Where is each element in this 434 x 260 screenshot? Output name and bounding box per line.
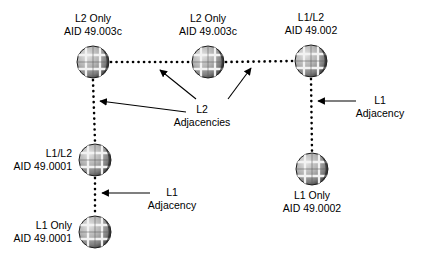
leader-l2-to-top-left-link: [160, 70, 196, 99]
leader-l2-to-top-right-link: [228, 68, 251, 99]
annotation-l2-line2: Adjacencies: [152, 116, 252, 129]
node-label-r2: L2 Only AID 49.003c: [158, 12, 258, 37]
router-node-r3[interactable]: [295, 45, 327, 77]
router-node-r2[interactable]: [192, 46, 224, 78]
node-aid-r5: AID 49.0001: [0, 232, 72, 245]
annotation-l1-left-line2: Adjacency: [124, 199, 220, 212]
node-level-r6: L1 Only: [262, 189, 362, 202]
router-node-r5[interactable]: [79, 216, 111, 248]
annotation-l1-adjacency-right: L1 Adjacency: [332, 94, 428, 119]
annotation-l2-adjacencies: L2 Adjacencies: [152, 103, 252, 128]
node-label-r3: L1/L2 AID 49.002: [261, 11, 361, 36]
node-label-r6: L1 Only AID 49.0002: [262, 189, 362, 214]
link-r1-r4: [93, 80, 95, 142]
network-diagram: L2 Only AID 49.003c L2 Only AID 49.003c …: [0, 0, 434, 260]
node-label-r1: L2 Only AID 49.003c: [43, 12, 143, 37]
router-node-r1[interactable]: [77, 46, 109, 78]
node-level-r2: L2 Only: [158, 12, 258, 25]
node-level-r4: L1/L2: [0, 147, 72, 160]
link-r2-r3: [226, 61, 293, 62]
annotation-l2-line1: L2: [152, 103, 252, 116]
node-aid-r6: AID 49.0002: [262, 202, 362, 215]
node-aid-r3: AID 49.002: [261, 24, 361, 37]
node-aid-r4: AID 49.0001: [0, 160, 72, 173]
node-label-r4: L1/L2 AID 49.0001: [0, 147, 72, 172]
annotation-l1-right-line2: Adjacency: [332, 107, 428, 120]
node-level-r3: L1/L2: [261, 11, 361, 24]
annotation-l1-adjacency-left: L1 Adjacency: [124, 186, 220, 211]
node-level-r1: L2 Only: [43, 12, 143, 25]
annotation-l1-left-line1: L1: [124, 186, 220, 199]
node-aid-r2: AID 49.003c: [158, 25, 258, 38]
node-aid-r1: AID 49.003c: [43, 25, 143, 38]
node-level-r5: L1 Only: [0, 219, 72, 232]
node-label-r5: L1 Only AID 49.0001: [0, 219, 72, 244]
annotation-l1-right-line1: L1: [332, 94, 428, 107]
router-node-r6[interactable]: [296, 153, 328, 185]
router-node-r4[interactable]: [79, 144, 111, 176]
link-r3-r6: [311, 79, 312, 151]
